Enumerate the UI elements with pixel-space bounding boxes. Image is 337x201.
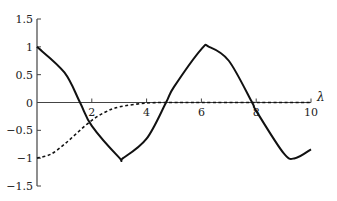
y-tick-label: 1	[26, 41, 33, 54]
y-tick-label: 0	[26, 97, 33, 110]
y-tick-label: 0.5	[16, 69, 34, 82]
series-dashed-line	[37, 102, 311, 158]
x-axis-label: λ	[316, 90, 325, 104]
line-chart: 1.510.50−0.5−1−1.5246810λ	[0, 0, 337, 201]
y-tick-label: −1.5	[6, 180, 33, 193]
x-tick-label: 10	[304, 106, 318, 119]
y-tick-label: −1	[17, 152, 33, 165]
y-tick-label: 1.5	[16, 13, 34, 26]
x-tick-label: 6	[198, 106, 205, 119]
x-tick-label: 2	[88, 106, 95, 119]
x-tick-label: 4	[143, 106, 150, 119]
y-tick-label: −0.5	[6, 124, 33, 137]
